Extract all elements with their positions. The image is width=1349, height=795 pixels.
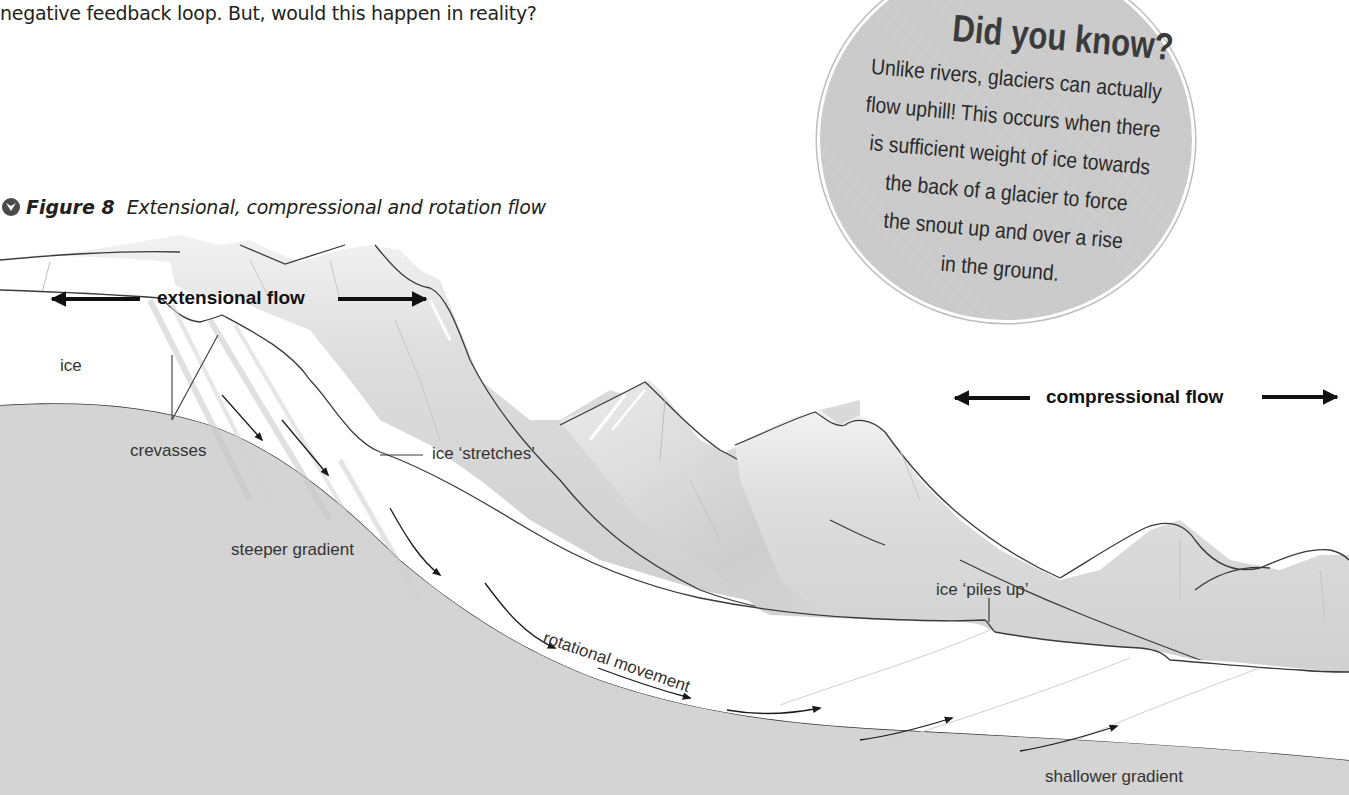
ice-label: ice — [60, 356, 82, 376]
ice-piles-up-label: ice ‘piles up’ — [936, 580, 1029, 600]
crevasses-label: crevasses — [130, 441, 207, 461]
did-you-know-callout: Did you know? Unlike rivers, glaciers ca… — [820, 0, 1192, 320]
extensional-flow-label: extensional flow — [157, 287, 305, 309]
steeper-gradient-label: steeper gradient — [231, 540, 354, 560]
shallower-gradient-label: shallower gradient — [1045, 767, 1183, 787]
callout-body: Unlike rivers, glaciers can actually flo… — [829, 46, 1188, 303]
ice-stretches-label: ice ‘stretches’ — [432, 444, 535, 464]
compressional-flow-label: compressional flow — [1046, 386, 1223, 408]
